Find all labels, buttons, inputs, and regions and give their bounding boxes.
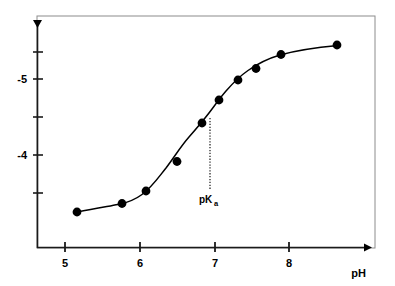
data-point	[252, 64, 261, 73]
y-tick-label-minus5: -5	[17, 73, 27, 85]
data-points	[73, 41, 342, 217]
x-axis-arrowhead-icon	[364, 244, 372, 252]
plot-frame	[37, 16, 375, 248]
x-tick-label-6: 6	[137, 257, 143, 269]
x-tick-label-8: 8	[286, 257, 292, 269]
data-point	[198, 119, 207, 128]
data-point	[142, 187, 151, 196]
x-tick-label-7: 7	[212, 257, 218, 269]
data-point	[73, 208, 82, 217]
data-point	[173, 157, 182, 166]
data-point	[215, 96, 224, 105]
y-tick-label-minus4: -4	[17, 149, 28, 161]
pka-annotation: pK a	[199, 194, 219, 208]
pka-label-subscript: a	[214, 199, 219, 208]
data-point	[277, 50, 286, 59]
curve-path	[77, 46, 338, 213]
x-tick-label-5: 5	[62, 257, 68, 269]
data-point	[333, 41, 342, 50]
y-axis-arrowhead-icon	[33, 20, 42, 28]
chart-figure: -5 -4 5 6 7 8 pH pK a	[0, 0, 395, 286]
pka-label-main: pK	[199, 194, 213, 205]
titration-curve-chart: -5 -4 5 6 7 8 pH pK a	[0, 0, 395, 286]
x-axis-title: pH	[351, 267, 366, 279]
data-point	[234, 76, 243, 85]
data-point	[118, 199, 127, 208]
